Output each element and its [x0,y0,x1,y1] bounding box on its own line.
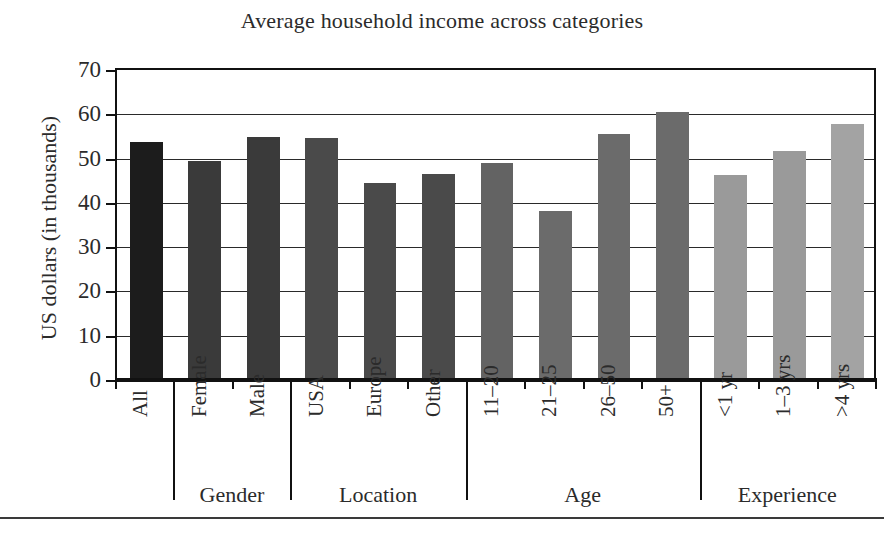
y-tick-label-20: 20 [78,278,101,304]
x-tick [583,378,585,389]
x-tick [232,378,234,389]
category-label: >4 yrs [830,364,855,417]
group-separator [173,382,175,500]
category-label: <1 yr [713,372,738,417]
group-label: Experience [738,482,837,508]
x-tick [407,378,409,389]
y-tick-label-50: 50 [78,146,101,172]
x-tick [758,378,760,389]
figure-bottom-rule [0,517,884,519]
group-label: Gender [200,482,265,508]
category-label: Male [245,374,270,417]
category-label: 21–25 [537,365,562,418]
group-separator [466,382,468,500]
x-tick [641,378,643,389]
bar [130,142,163,378]
bar [656,112,689,378]
bar [481,163,514,378]
plot-inner: 010203040506070 [117,70,875,378]
y-tick-mark-10 [106,336,117,338]
bar [188,161,221,378]
x-tick [349,378,351,389]
bar [714,175,747,378]
gridline-50 [117,159,875,160]
category-label: All [128,390,153,417]
y-tick-label-30: 30 [78,234,101,260]
group-separator [290,382,292,500]
chart-title: Average household income across categori… [0,8,884,34]
y-tick-mark-30 [106,247,117,249]
group-separator [700,382,702,500]
category-label: 1–3 yrs [771,355,796,417]
bar [364,183,397,378]
category-label: USA [304,375,329,417]
category-label: Europe [362,356,387,417]
gridline-60 [117,114,875,115]
category-label: 11–20 [479,365,504,417]
category-label: 50+ [654,384,679,417]
bar [422,174,455,378]
x-tick [817,378,819,389]
y-tick-mark-50 [106,159,117,161]
y-axis-title: US dollars (in thousands) [36,63,62,393]
plot-area: 010203040506070 [115,68,875,378]
x-tick [875,378,877,389]
category-label: Female [187,355,212,417]
bar-chart-figure: Average household income across categori… [0,0,884,559]
bar [305,138,338,378]
category-label: 26–50 [596,365,621,418]
y-tick-mark-20 [106,291,117,293]
y-tick-mark-60 [106,114,117,116]
group-label: Age [564,482,601,508]
y-tick-label-40: 40 [78,190,101,216]
bar [831,124,864,378]
y-tick-mark-40 [106,203,117,205]
y-tick-mark-70 [106,70,117,72]
y-tick-label-70: 70 [78,57,101,83]
x-tick [115,378,117,389]
bar [773,151,806,378]
group-label: Location [339,482,417,508]
y-tick-label-10: 10 [78,323,101,349]
bar [539,211,572,378]
plot-right-border [874,68,876,380]
bar [247,137,280,378]
bar [598,134,631,378]
category-label: Other [421,369,446,417]
x-tick [524,378,526,389]
y-tick-label-0: 0 [90,367,102,393]
y-tick-label-60: 60 [78,101,101,127]
